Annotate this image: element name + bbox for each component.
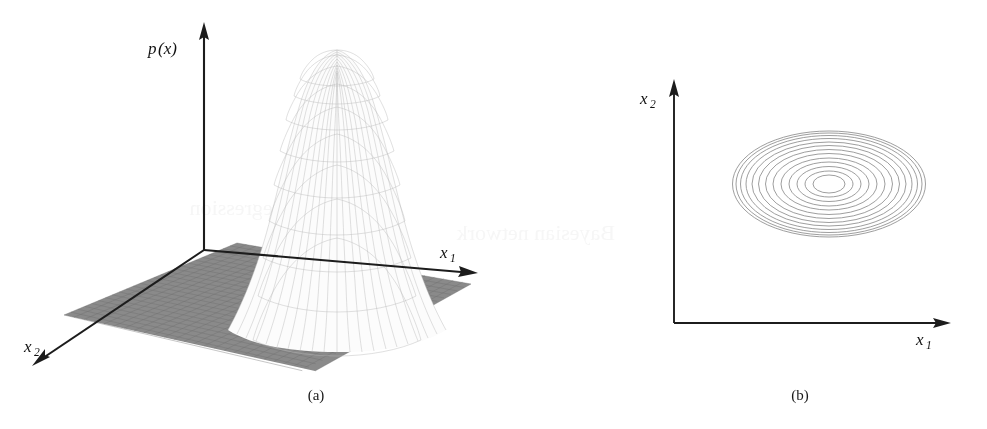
panel-b-group: x 2 x 1 (b): [639, 79, 951, 404]
x1-axis-2d: [674, 318, 951, 328]
x2-sublabel-2d: 2: [650, 98, 656, 110]
caption-a: (a): [308, 387, 325, 404]
axis-label-x1-2d: x 1: [915, 330, 932, 351]
p-of-x-argument: (x): [158, 39, 177, 58]
axis-label-x2-2d: x 2: [639, 89, 656, 110]
p-of-x-label: p: [147, 39, 157, 58]
axis-label-x2-3d: x 2: [23, 337, 40, 358]
axis-label-x1-3d: x 1: [439, 243, 456, 264]
figure-svg: regression Bayesian network wellness: [0, 0, 987, 429]
x2-label-2d: x: [639, 89, 648, 108]
axis-label-p-of-x: p (x): [147, 39, 177, 58]
svg-text:Bayesian network: Bayesian network: [457, 220, 615, 245]
x1-sublabel-3d: 1: [450, 252, 456, 264]
x2-sublabel-3d: 2: [34, 346, 40, 358]
x2-label-3d: x: [23, 337, 32, 356]
x1-label-2d: x: [915, 330, 924, 349]
caption-b: (b): [791, 387, 809, 404]
figure-container: regression Bayesian network wellness: [0, 0, 987, 429]
x2-axis-2d: [669, 79, 679, 323]
contour-rings: [733, 131, 926, 237]
x1-label-3d: x: [439, 243, 448, 262]
x1-sublabel-2d: 1: [926, 339, 932, 351]
